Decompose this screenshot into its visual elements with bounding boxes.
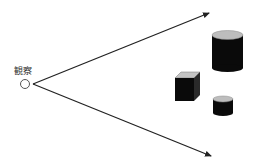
diagram-canvas xyxy=(0,0,259,165)
small-cylinder xyxy=(213,96,233,116)
cube xyxy=(175,72,200,101)
observer-circle-icon xyxy=(21,80,30,89)
large-cylinder xyxy=(212,31,243,73)
observer-label: 観察 xyxy=(14,64,31,77)
